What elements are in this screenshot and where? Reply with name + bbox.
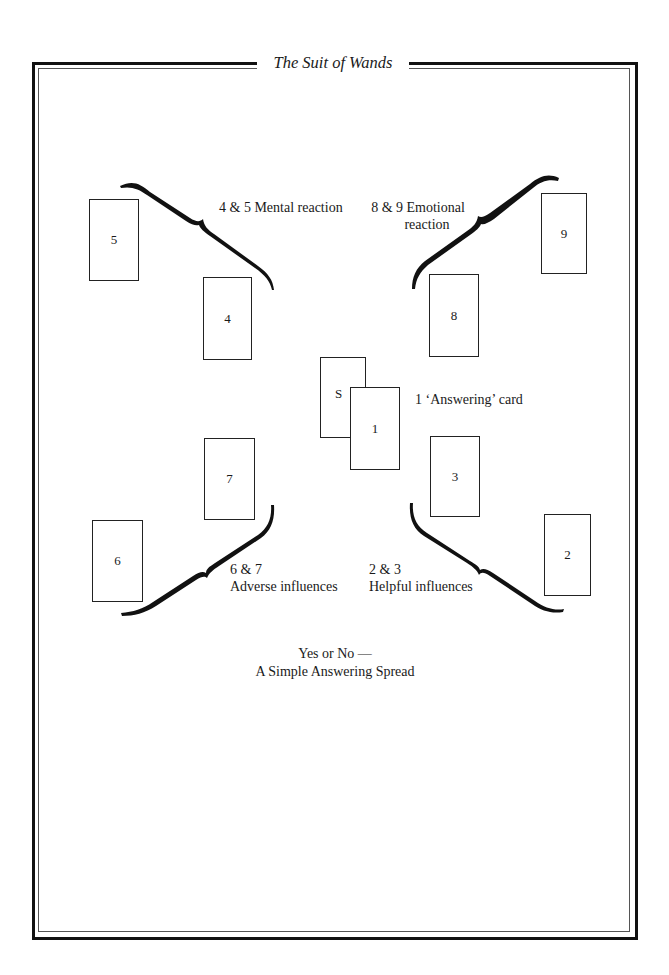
label-adverse-line2: Adverse influences — [230, 578, 338, 595]
label-adverse-line1: 6 & 7 — [230, 561, 338, 578]
card-label: 8 — [451, 308, 458, 324]
label-answering-card: 1 ‘Answering’ card — [415, 391, 523, 408]
caption: Yes or No — A Simple Answering Spread — [185, 645, 485, 681]
label-emotional-line2: reaction — [378, 216, 476, 233]
label-helpful-line1: 2 & 3 — [369, 561, 473, 578]
card-5: 5 — [89, 199, 139, 281]
card-7: 7 — [204, 438, 255, 520]
card-9: 9 — [541, 193, 587, 274]
caption-line1: Yes or No — — [185, 645, 485, 663]
card-label: 5 — [111, 232, 118, 248]
card-label: 4 — [224, 311, 231, 327]
card-4: 4 — [203, 277, 252, 360]
card-label: 1 — [372, 421, 379, 437]
label-adverse-influences: 6 & 7 Adverse influences — [230, 561, 338, 595]
card-label: 3 — [452, 469, 459, 485]
card-label: 9 — [561, 226, 568, 242]
label-emotional-reaction: 8 & 9 Emotional reaction — [356, 199, 476, 233]
brace-helpful-icon — [410, 503, 564, 613]
label-emotional-line1: 8 & 9 Emotional — [360, 199, 476, 216]
label-helpful-line2: Helpful influences — [369, 578, 473, 595]
label-mental-reaction: 4 & 5 Mental reaction — [219, 199, 343, 216]
card-label: S — [335, 386, 342, 402]
braces-layer — [0, 0, 669, 975]
card-3: 3 — [430, 436, 480, 517]
card-2: 2 — [544, 514, 591, 596]
card-label: 7 — [226, 471, 233, 487]
card-8: 8 — [429, 274, 479, 357]
card-1: 1 — [350, 387, 400, 470]
card-6: 6 — [92, 520, 143, 602]
card-label: 2 — [564, 547, 571, 563]
card-label: 6 — [114, 553, 121, 569]
label-helpful-influences: 2 & 3 Helpful influences — [369, 561, 473, 595]
caption-line2: A Simple Answering Spread — [185, 663, 485, 681]
